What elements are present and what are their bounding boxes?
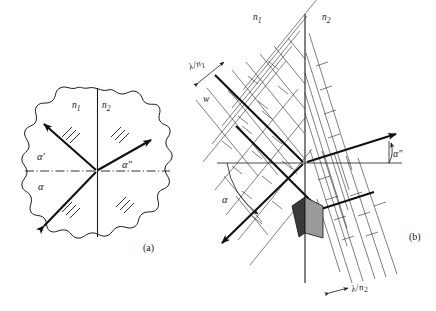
panel-b-shaded-region-right	[305, 197, 323, 238]
panel-a-hatch-upper-right	[111, 127, 129, 143]
panel-b-alpha-refracted-arc	[389, 143, 392, 163]
panel-a-alpha-reflected-label: α′	[37, 151, 46, 162]
optics-figure: n1 n2 α′ α α″ (a)	[0, 0, 436, 311]
panel-a-reflected-ray	[44, 124, 96, 170]
panel-a: n1 n2 α′ α α″ (a)	[22, 87, 172, 254]
panel-a-alpha-refracted-label: α″	[122, 159, 133, 170]
panel-b: n1 n2 λ/n1 λ/n2 w α α″ (b)	[186, 0, 421, 297]
panel-a-n1-label: n1	[72, 100, 81, 113]
panel-b-reflected-ray	[222, 164, 303, 243]
panel-b-wavefronts-reflected	[196, 38, 305, 235]
figure-container: n1 n2 α′ α α″ (a)	[0, 0, 436, 311]
panel-b-refracted-ray	[307, 134, 396, 162]
panel-b-alpha-label: α	[222, 194, 228, 205]
panel-a-alpha-incident-label: α	[38, 181, 44, 192]
panel-b-alpha-refracted-label: α″	[393, 148, 403, 159]
panel-b-n1-label: n1	[253, 12, 262, 25]
panel-b-shaded-region-left	[292, 197, 305, 237]
panel-a-hatch-lower-right	[116, 197, 134, 213]
panel-a-tag: (a)	[143, 242, 154, 254]
panel-b-n2-label: n2	[322, 12, 331, 25]
panel-b-lambda-n2-measure	[329, 288, 348, 293]
svg-text:λ/n1: λ/n1	[186, 56, 207, 74]
panel-a-n2-label: n2	[102, 100, 111, 113]
panel-b-lambda-n1-label: λ/n1	[186, 56, 207, 74]
panel-a-hatch-upper-left	[62, 127, 80, 143]
panel-b-ray-ticks-medium1	[222, 61, 292, 224]
panel-b-tag: (b)	[409, 231, 421, 243]
panel-b-beam-width-label: w	[203, 94, 210, 104]
